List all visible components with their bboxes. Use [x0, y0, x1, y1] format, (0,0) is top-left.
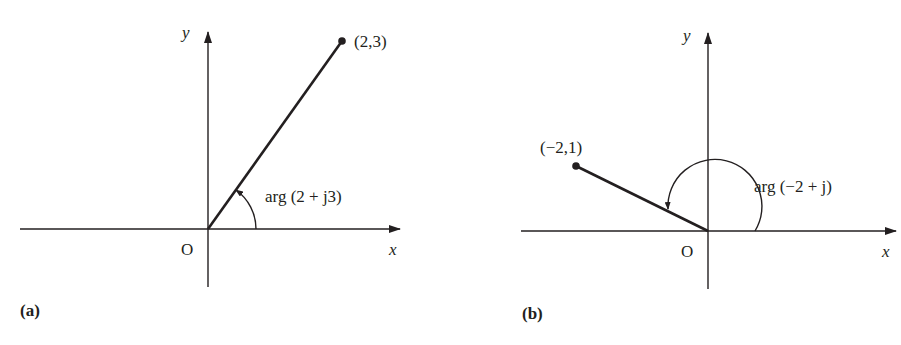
x-axis-label-a: x	[389, 241, 397, 258]
angle-arc-a	[236, 190, 256, 229]
caption-a: (a)	[20, 302, 40, 319]
y-axis-label-b: y	[683, 27, 691, 44]
point-label-a: (2,3)	[354, 33, 387, 50]
panel-b	[521, 33, 896, 289]
angle-label-a: arg (2 + j3)	[265, 188, 342, 205]
origin-label-b: O	[681, 243, 693, 260]
vector-b	[576, 166, 708, 231]
panel-a	[20, 32, 400, 287]
point-b	[572, 162, 580, 170]
origin-label-a: O	[181, 241, 193, 258]
point-a	[338, 37, 346, 45]
caption-b: (b)	[522, 305, 543, 322]
point-label-b: (−2,1)	[540, 139, 582, 156]
angle-label-b: arg (−2 + j)	[754, 178, 832, 195]
angle-arc-b	[668, 159, 762, 231]
y-axis-label-a: y	[182, 24, 190, 41]
x-axis-label-b: x	[882, 243, 890, 260]
argand-diagrams	[0, 0, 901, 345]
